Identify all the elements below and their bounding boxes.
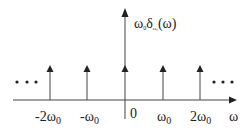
- x-axis-label: ω: [229, 109, 238, 124]
- tick-label-plus-1: ω0: [157, 109, 171, 126]
- x-axis-arrow-icon: [229, 97, 237, 104]
- tick-label-zero: 0: [130, 106, 137, 121]
- ellipsis-left: [15, 80, 37, 83]
- tick-label-minus-2: -2ω0: [35, 109, 61, 126]
- impulse-arrow-icon: [122, 65, 129, 72]
- impulse-arrow-icon: [47, 65, 54, 72]
- impulse-train-diagram: ω0δω₀(ω) -2ω0 -ω0 0 ω0 2ω0 ω: [0, 0, 249, 131]
- tick-label-minus-1: -ω0: [80, 109, 99, 126]
- impulse-arrow-icon: [84, 65, 91, 72]
- impulse-arrow-icon: [160, 65, 167, 72]
- tick-label-plus-2: 2ω0: [190, 109, 211, 126]
- impulse-arrow-icon: [197, 65, 204, 72]
- y-axis-label: ω0δω₀(ω): [134, 16, 177, 32]
- y-axis-arrow-icon: [122, 8, 129, 17]
- ellipsis-right: [212, 80, 233, 83]
